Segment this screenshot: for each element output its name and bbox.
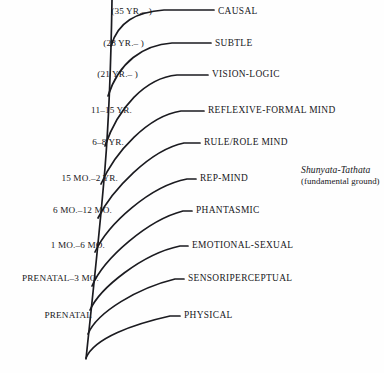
age-label-causal: (35 YR.– ) <box>111 6 152 16</box>
age-label-vision-logic: (21 YR.– ) <box>97 69 138 79</box>
level-label-phantasmic: PHANTASMIC <box>196 205 260 215</box>
level-label-physical: PHYSICAL <box>184 310 233 320</box>
level-label-causal: CAUSAL <box>218 6 258 16</box>
age-label-subtle: (28 YR.– ) <box>103 38 144 48</box>
level-label-sensoriperceptual: SENSORIPERCEPTUAL <box>188 273 292 283</box>
branch-rep-mind <box>95 179 196 252</box>
level-label-vision-logic: VISION-LOGIC <box>212 69 280 79</box>
age-label-physical: PRENATAL <box>45 310 92 320</box>
branch-phantasmic <box>92 211 192 286</box>
age-label-rule-role-mind: 6–8 YR. <box>92 137 124 147</box>
level-label-rep-mind: REP-MIND <box>200 173 248 183</box>
branch-physical <box>86 316 180 358</box>
ground-note-subtitle: (fundamental ground) <box>301 176 380 187</box>
level-label-reflexive-formal-mind: REFLEXIVE-FORMAL MIND <box>208 105 336 115</box>
age-label-sensoriperceptual: PRENATAL–3 MO. <box>22 273 99 283</box>
age-label-emotional-sexual: 1 MO.–6 MO. <box>51 240 105 250</box>
age-label-rep-mind: 15 MO.–2 YR. <box>61 173 118 183</box>
level-label-emotional-sexual: EMOTIONAL-SEXUAL <box>192 240 293 250</box>
ground-note: Shunyata-Tathata (fundamental ground) <box>301 164 380 188</box>
level-label-subtle: SUBTLE <box>215 38 253 48</box>
ground-note-title: Shunyata-Tathata <box>301 164 380 176</box>
age-label-phantasmic: 6 MO.–12 MO. <box>53 205 112 215</box>
developmental-levels-diagram: (35 YR.– )(28 YR.– )(21 YR.– )11–15 YR.6… <box>0 0 384 373</box>
age-label-reflexive-formal-mind: 11–15 YR. <box>91 105 132 115</box>
branch-emotional-sexual <box>90 246 188 310</box>
level-label-rule-role-mind: RULE/ROLE MIND <box>204 137 288 147</box>
